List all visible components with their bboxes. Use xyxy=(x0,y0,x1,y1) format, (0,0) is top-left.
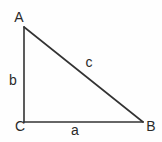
vertex-label-b: B xyxy=(146,118,155,134)
vertex-label-c: C xyxy=(15,118,25,134)
side-label-a: a xyxy=(71,122,79,138)
vertex-label-a: A xyxy=(14,9,24,25)
triangle-svg: A C B b c a xyxy=(0,0,162,142)
side-label-c: c xyxy=(86,54,93,70)
side-c-line xyxy=(24,27,143,122)
side-label-b: b xyxy=(9,72,17,88)
triangle-diagram: A C B b c a xyxy=(0,0,162,142)
